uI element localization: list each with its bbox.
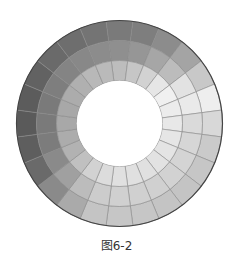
wheel-segment-outer-18 (17, 110, 38, 137)
wheel-center-hole (77, 81, 162, 166)
wheel-segment-middle-0 (109, 41, 131, 62)
wheel-segment-middle-12 (109, 186, 131, 207)
wheel-segment-middle-6 (182, 113, 203, 135)
wheel-segment-outer-6 (202, 110, 223, 137)
wheel-segment-middle-18 (37, 113, 58, 135)
wheel-segment-outer-12 (106, 206, 133, 227)
gray-color-wheel (0, 0, 233, 257)
wheel-segment-outer-0 (106, 21, 133, 42)
figure-caption: 图6-2 (0, 238, 233, 254)
